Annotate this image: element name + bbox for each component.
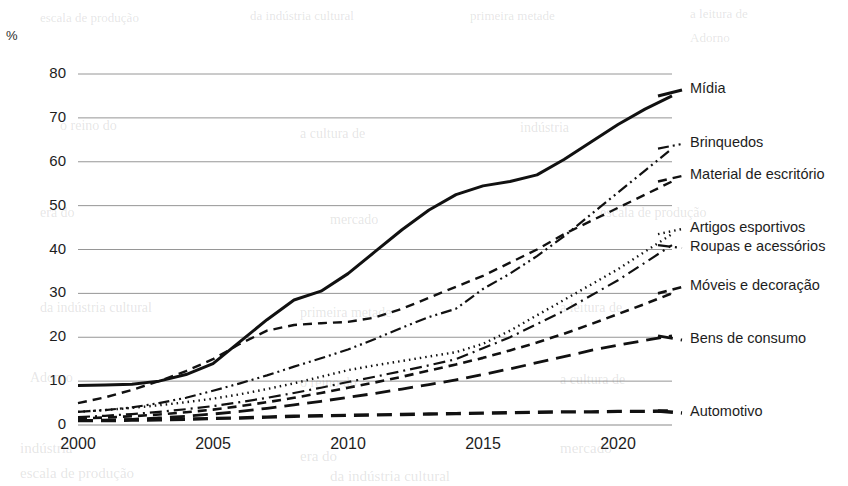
legend-item-label: Mídia [690,80,725,96]
y-tick-label: 10 [20,371,66,388]
y-tick-label: 80 [20,64,66,81]
series-line-6 [78,293,672,418]
y-tick-label: 30 [20,283,66,300]
x-tick-label: 2020 [600,435,636,453]
legend-item-label: Bens de consumo [690,330,806,346]
y-tick-label: 60 [20,152,66,169]
chart-figure: % 01020304050607080 20002005201020152020… [0,0,848,486]
x-tick-label: 2005 [195,435,231,453]
gridlines-group [78,74,672,425]
x-tick-label: 2015 [465,435,501,453]
legend-swatch-8 [658,411,682,413]
series-lines-group [78,96,672,421]
legend-swatch-1 [658,90,682,96]
series-line-1 [78,96,672,386]
series-line-2 [78,149,672,412]
series-line-4 [78,234,672,412]
legend-swatch-2 [658,144,682,149]
series-line-5 [78,245,672,417]
legend-leader-lines-group [658,90,682,413]
y-tick-label: 20 [20,327,66,344]
legend-swatch-6 [658,287,682,293]
legend-item-label: Material de escritório [690,166,825,182]
legend-swatch-3 [658,176,682,181]
legend-item-label: Artigos esportivos [690,219,805,235]
legend-swatch-4 [658,229,682,234]
x-tick-label: 2000 [60,435,96,453]
legend-item-label: Automotivo [690,403,763,419]
legend-item-label: Roupas e acessórios [690,238,825,254]
y-tick-label: 0 [20,415,66,432]
series-line-3 [78,181,672,403]
legend-item-label: Brinquedos [690,134,763,150]
x-tick-label: 2010 [330,435,366,453]
y-tick-label: 70 [20,108,66,125]
y-tick-label: 50 [20,196,66,213]
legend-item-label: Móveis e decoração [690,277,820,293]
series-line-8 [78,411,672,421]
y-tick-label: 40 [20,240,66,257]
